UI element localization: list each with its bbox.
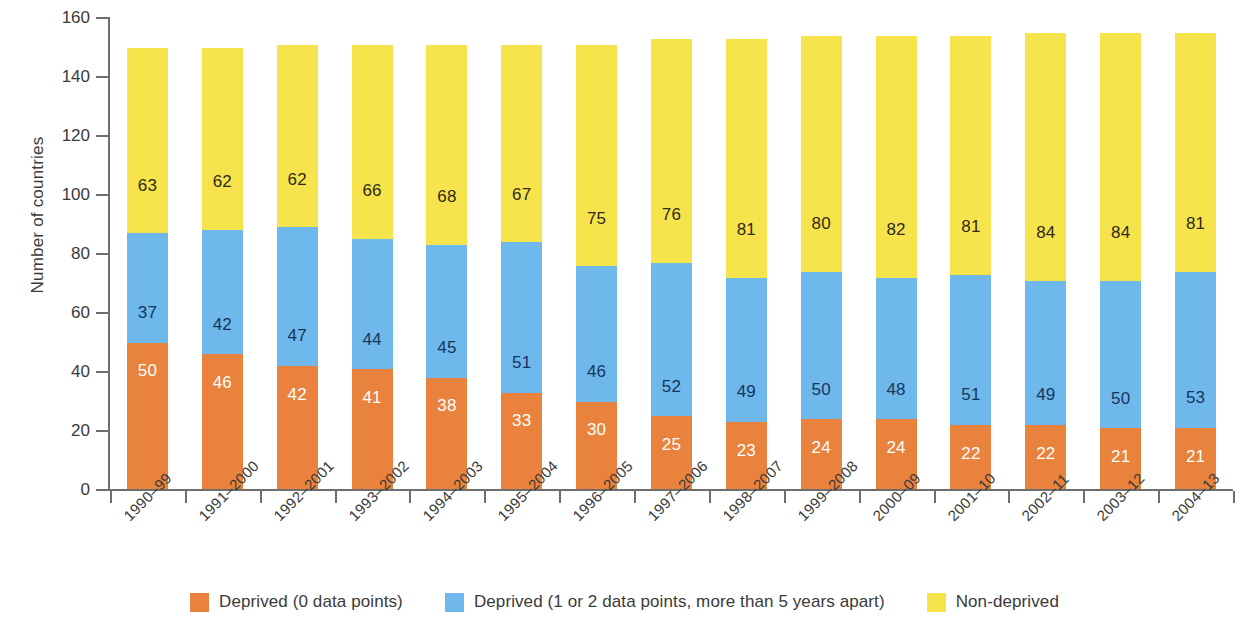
bar-value-label: 48 xyxy=(886,381,905,398)
bar-group[interactable]: 414466 xyxy=(352,18,393,490)
bar-segment[interactable]: 76 xyxy=(651,39,692,263)
bar-group[interactable]: 244882 xyxy=(876,18,917,490)
legend-swatch-icon xyxy=(190,593,209,612)
y-tick-mark xyxy=(96,76,110,78)
bar-value-label: 24 xyxy=(886,439,905,456)
bar-value-label: 46 xyxy=(587,363,606,380)
bar-group[interactable]: 424762 xyxy=(277,18,318,490)
bar-value-label: 21 xyxy=(1111,448,1130,465)
bar-value-label: 52 xyxy=(662,378,681,395)
bar-value-label: 81 xyxy=(737,221,756,238)
bar-segment[interactable]: 84 xyxy=(1100,33,1141,281)
bar-value-label: 42 xyxy=(213,316,232,333)
bar-segment[interactable]: 53 xyxy=(1175,272,1216,428)
bar-group[interactable]: 304675 xyxy=(576,18,617,490)
bar-segment[interactable]: 45 xyxy=(426,245,467,378)
bar-value-label: 25 xyxy=(662,436,681,453)
legend-swatch-icon xyxy=(445,593,464,612)
bar-segment[interactable]: 48 xyxy=(876,278,917,420)
bar-segment[interactable]: 68 xyxy=(426,45,467,246)
bar-segment[interactable]: 67 xyxy=(501,45,542,243)
bar-value-label: 22 xyxy=(1036,445,1055,462)
bar-segment[interactable]: 51 xyxy=(501,242,542,392)
x-tick-mark xyxy=(709,491,711,503)
bar-value-label: 84 xyxy=(1111,224,1130,241)
x-tick-mark xyxy=(934,491,936,503)
legend-item[interactable]: Deprived (1 or 2 data points, more than … xyxy=(445,592,885,612)
bar-value-label: 47 xyxy=(288,328,307,345)
bar-segment[interactable]: 50 xyxy=(127,343,168,491)
bar-segment[interactable]: 49 xyxy=(726,278,767,423)
bar-segment[interactable]: 62 xyxy=(202,48,243,231)
bar-value-label: 37 xyxy=(138,304,157,321)
bar-value-label: 82 xyxy=(886,221,905,238)
bar-value-label: 49 xyxy=(737,384,756,401)
bar-group[interactable]: 224984 xyxy=(1025,18,1066,490)
legend-label: Non-deprived xyxy=(956,592,1059,612)
bar-value-label: 62 xyxy=(213,174,232,191)
y-tick-mark xyxy=(96,135,110,137)
x-tick-mark xyxy=(859,491,861,503)
bar-segment[interactable]: 84 xyxy=(1025,33,1066,281)
legend-label: Deprived (1 or 2 data points, more than … xyxy=(474,592,885,612)
bar-value-label: 51 xyxy=(961,387,980,404)
bar-segment[interactable]: 50 xyxy=(801,272,842,420)
bar-segment[interactable]: 44 xyxy=(352,239,393,369)
bar-group[interactable]: 335167 xyxy=(501,18,542,490)
bar-value-label: 76 xyxy=(662,206,681,223)
x-tick-mark xyxy=(1008,491,1010,503)
bar-segment[interactable]: 66 xyxy=(352,45,393,240)
y-tick-label: 100 xyxy=(26,185,90,205)
bar-value-label: 66 xyxy=(362,183,381,200)
y-tick-mark xyxy=(96,312,110,314)
bar-value-label: 23 xyxy=(737,442,756,459)
y-tick-mark xyxy=(96,253,110,255)
bar-group[interactable]: 225181 xyxy=(950,18,991,490)
bar-value-label: 44 xyxy=(362,331,381,348)
bar-segment[interactable]: 81 xyxy=(950,36,991,275)
y-tick-label: 140 xyxy=(26,67,90,87)
bar-segment[interactable]: 49 xyxy=(1025,281,1066,426)
bar-segment[interactable]: 42 xyxy=(202,230,243,354)
bar-group[interactable]: 255276 xyxy=(651,18,692,490)
bar-group[interactable]: 234981 xyxy=(726,18,767,490)
bar-segment[interactable]: 52 xyxy=(651,263,692,416)
bar-segment[interactable]: 80 xyxy=(801,36,842,272)
bar-value-label: 49 xyxy=(1036,387,1055,404)
y-tick-label: 80 xyxy=(26,244,90,264)
bar-group[interactable]: 245080 xyxy=(801,18,842,490)
bar-segment[interactable]: 47 xyxy=(277,227,318,366)
bar-value-label: 50 xyxy=(138,362,157,379)
bar-segment[interactable]: 82 xyxy=(876,36,917,278)
bar-segment[interactable]: 63 xyxy=(127,48,168,234)
bar-segment[interactable]: 46 xyxy=(576,266,617,402)
bar-value-label: 24 xyxy=(812,439,831,456)
x-tick-mark xyxy=(110,491,112,503)
bar-value-label: 50 xyxy=(812,381,831,398)
bar-segment[interactable]: 37 xyxy=(127,233,168,342)
legend-item[interactable]: Non-deprived xyxy=(927,592,1059,612)
x-tick-mark xyxy=(335,491,337,503)
bar-group[interactable]: 215084 xyxy=(1100,18,1141,490)
legend-label: Deprived (0 data points) xyxy=(219,592,403,612)
x-tick-mark xyxy=(1233,491,1235,503)
y-tick-mark xyxy=(96,17,110,19)
x-tick-mark xyxy=(409,491,411,503)
bar-value-label: 80 xyxy=(812,215,831,232)
bar-segment[interactable]: 50 xyxy=(1100,281,1141,429)
legend-item[interactable]: Deprived (0 data points) xyxy=(190,592,403,612)
bar-value-label: 81 xyxy=(961,218,980,235)
bar-group[interactable]: 384568 xyxy=(426,18,467,490)
bar-value-label: 51 xyxy=(512,354,531,371)
x-tick-mark xyxy=(634,491,636,503)
bar-segment[interactable]: 81 xyxy=(726,39,767,278)
bar-segment[interactable]: 62 xyxy=(277,45,318,228)
x-tick-mark xyxy=(784,491,786,503)
bar-segment[interactable]: 75 xyxy=(576,45,617,266)
bar-segment[interactable]: 51 xyxy=(950,275,991,425)
bar-group[interactable]: 464262 xyxy=(202,18,243,490)
bar-segment[interactable]: 81 xyxy=(1175,33,1216,272)
bar-value-label: 84 xyxy=(1036,224,1055,241)
bar-group[interactable]: 215381 xyxy=(1175,18,1216,490)
bar-group[interactable]: 503763 xyxy=(127,18,168,490)
